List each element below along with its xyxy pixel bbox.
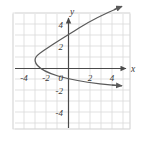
y-tick-label-2: 2 bbox=[59, 42, 64, 52]
x-axis-label: x bbox=[130, 64, 136, 74]
coordinate-plane-figure: y x -4 -2 2 4 4 2 0 -2 -4 bbox=[0, 0, 146, 146]
x-tick-label--2: -2 bbox=[42, 73, 50, 83]
y-tick-label-0: 0 bbox=[59, 73, 64, 83]
curve-arrowhead-lower-right bbox=[112, 85, 122, 86]
y-axis-label: y bbox=[69, 7, 75, 17]
y-tick-label-4: 4 bbox=[59, 20, 64, 30]
curve-arrowhead-upper-right bbox=[114, 6, 122, 9]
graph-screenshot: y x -4 -2 2 4 4 2 0 -2 -4 bbox=[0, 0, 146, 146]
x-tick-label--4: -4 bbox=[20, 73, 28, 83]
y-tick-label--4: -4 bbox=[56, 108, 64, 118]
x-tick-label-2: 2 bbox=[88, 73, 93, 83]
y-tick-label--2: -2 bbox=[56, 86, 64, 96]
x-tick-label-4: 4 bbox=[110, 73, 115, 83]
